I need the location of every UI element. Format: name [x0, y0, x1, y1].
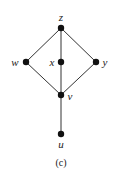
hasse-diagram: zwxyvu (c) — [0, 0, 116, 169]
node-x — [58, 59, 64, 65]
node-u — [58, 131, 64, 137]
node-z — [58, 25, 64, 31]
figure-caption: (c) — [55, 157, 66, 169]
node-y — [93, 59, 99, 65]
node-label-u: u — [58, 138, 64, 150]
node-label-x: x — [49, 56, 55, 68]
node-v — [58, 92, 64, 98]
edge-z-w — [26, 28, 61, 62]
node-label-z: z — [58, 11, 64, 23]
edge-y-v — [61, 62, 96, 95]
node-label-v: v — [68, 90, 73, 102]
node-label-y: y — [102, 56, 108, 68]
node-label-w: w — [11, 56, 19, 68]
labels-group: zwxyvu — [11, 11, 107, 150]
edge-w-v — [26, 62, 61, 95]
edges-group — [26, 28, 96, 134]
node-w — [23, 59, 29, 65]
edge-z-y — [61, 28, 96, 62]
